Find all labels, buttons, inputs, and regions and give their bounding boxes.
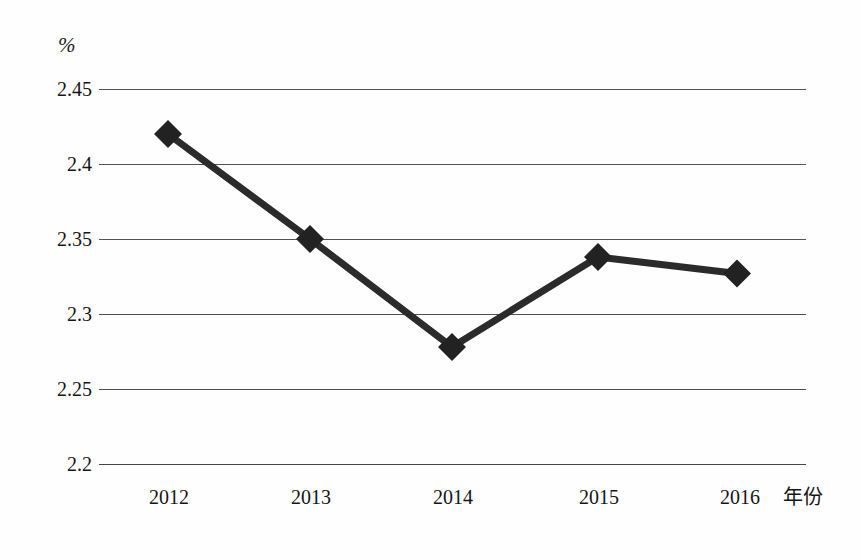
y-tick-label: 2.35 <box>14 229 92 249</box>
x-axis-title: 年份 <box>783 486 823 508</box>
gridline <box>99 89 806 90</box>
x-tick-label-2015: 2015 <box>579 486 619 508</box>
gridline <box>99 314 806 315</box>
y-tick-label: 2.25 <box>14 379 92 399</box>
x-tick-label-2016: 2016 <box>720 486 760 508</box>
gridline <box>99 239 806 240</box>
gridline <box>99 164 806 165</box>
x-tick-label-2012: 2012 <box>149 486 189 508</box>
y-tick-label: 2.3 <box>14 304 92 324</box>
gridline <box>99 389 806 390</box>
x-tick-label-2014: 2014 <box>433 486 473 508</box>
x-tick-label-2013: 2013 <box>291 486 331 508</box>
y-tick-label: 2.4 <box>14 154 92 174</box>
y-tick-label: 2.2 <box>14 454 92 474</box>
y-tick-label: 2.45 <box>14 79 92 99</box>
line-chart-figure: % 2.45 2.4 2.35 2.3 2.25 2.2 2012 2013 2… <box>0 0 861 560</box>
x-axis-line <box>99 464 806 465</box>
y-axis-unit-label: % <box>58 33 76 58</box>
y-axis-tick-labels: 2.45 2.4 2.35 2.3 2.25 2.2 <box>0 89 92 464</box>
plot-area <box>99 89 806 464</box>
